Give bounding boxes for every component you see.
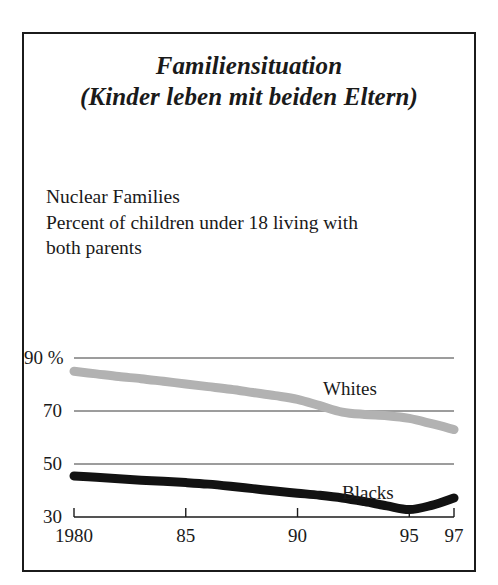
chart-plot-area: 90 %705030 198085909597 WhitesBlacks [24,34,474,570]
x-tick-label: 1980 [39,526,109,545]
series-lines [74,371,454,509]
y-tick-label: 90 % [24,348,62,367]
y-tick-label: 50 [24,454,62,473]
series-line-whites [74,371,454,429]
x-tick-label: 97 [419,526,489,545]
chart-canvas [24,34,478,574]
chart-figure: Familiensituation (Kinder leben mit beid… [22,32,476,572]
series-label-blacks: Blacks [342,483,394,502]
series-label-whites: Whites [323,379,377,398]
x-tick-label: 90 [263,526,333,545]
series-line-blacks [74,476,454,510]
y-tick-label: 70 [24,401,62,420]
y-tick-label: 30 [24,507,62,526]
x-tick-label: 85 [151,526,221,545]
